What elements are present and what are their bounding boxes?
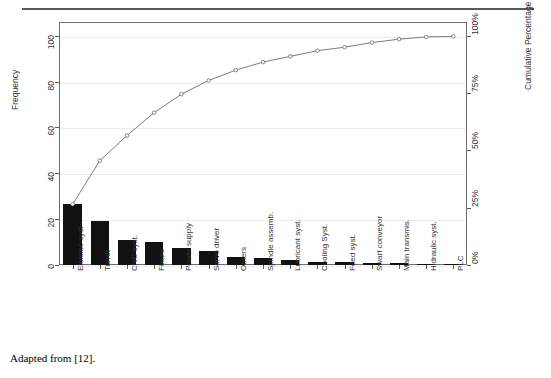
cumulative-marker-12: [397, 37, 401, 41]
y-right-tick-label: 25%: [470, 177, 480, 207]
cumulative-marker-8: [288, 55, 292, 59]
pareto-chart-figure: Frequency Cumulative Percentage 02040608…: [0, 0, 551, 345]
cumulative-marker-10: [343, 45, 347, 49]
y-right-tick-label: 0%: [470, 234, 480, 264]
y-left-tick-label: 60: [46, 126, 56, 148]
y-left-tick-label: 40: [46, 172, 56, 194]
x-tick-mark: [453, 265, 454, 269]
x-axis-label-10: Feed syst.: [348, 234, 357, 271]
cumulative-marker-11: [370, 41, 374, 45]
x-axis-label-12: Main transmis.: [402, 219, 411, 271]
x-axis-label-8: Lubricant syst.: [293, 219, 302, 271]
x-tick-mark: [399, 265, 400, 269]
x-tick-mark: [236, 265, 237, 269]
x-tick-mark: [290, 265, 291, 269]
x-tick-mark: [317, 265, 318, 269]
y-axis-right-title: Cumulative Percentage: [523, 2, 533, 90]
x-axis-label-6: Others: [239, 247, 248, 271]
cumulative-marker-2: [125, 134, 129, 138]
cumulative-markers: [71, 35, 455, 207]
x-tick-mark: [73, 265, 74, 269]
x-axis-label-4: Power supply: [184, 223, 193, 271]
x-axis-label-5: Servo driver: [212, 228, 221, 271]
y-right-tick-label: 50%: [470, 119, 480, 149]
y-right-tick-label: 100%: [470, 5, 480, 35]
x-tick-mark: [127, 265, 128, 269]
x-axis-label-7: Spindle assemb.: [266, 212, 275, 271]
y-right-tick-mark: [467, 93, 471, 94]
x-tick-mark: [263, 265, 264, 269]
figure-caption: Adapted from [12].: [10, 352, 95, 364]
y-left-tick-label: 100: [46, 35, 56, 57]
cumulative-marker-13: [424, 35, 428, 39]
x-tick-mark: [209, 265, 210, 269]
x-axis-label-13: Hidraulic syst.: [429, 221, 438, 271]
cumulative-marker-5: [207, 79, 211, 83]
cumulative-marker-9: [316, 49, 320, 53]
cumulative-marker-1: [98, 159, 102, 163]
y-right-tick-mark: [467, 265, 471, 266]
x-tick-mark: [372, 265, 373, 269]
x-axis-label-1: Turret: [103, 250, 112, 271]
x-axis-label-0: Elelelec syst: [76, 227, 85, 271]
cumulative-marker-0: [71, 203, 75, 207]
x-axis-label-3: Fixure: [157, 249, 166, 271]
y-right-tick-mark: [467, 150, 471, 151]
y-right-tick-mark: [467, 208, 471, 209]
y-left-tick-label: 20: [46, 218, 56, 240]
cumulative-marker-14: [452, 35, 456, 39]
y-axis-left-title: Frequency: [10, 70, 20, 110]
x-axis-label-9: Cooling Syst.: [320, 224, 329, 271]
x-tick-mark: [154, 265, 155, 269]
x-tick-mark: [100, 265, 101, 269]
cumulative-marker-7: [261, 60, 265, 64]
x-tick-mark: [426, 265, 427, 269]
x-tick-mark: [181, 265, 182, 269]
x-axis-label-2: CNC syst.: [130, 235, 139, 271]
y-right-tick-label: 75%: [470, 62, 480, 92]
y-left-tick-label: 80: [46, 81, 56, 103]
x-axis-label-11: Swarf conveyor: [375, 216, 384, 271]
x-tick-mark: [345, 265, 346, 269]
y-right-tick-mark: [467, 36, 471, 37]
cumulative-marker-3: [152, 111, 156, 115]
cumulative-marker-4: [180, 92, 184, 96]
x-axis-label-14: PLC: [456, 255, 465, 271]
cumulative-marker-6: [234, 68, 238, 72]
y-left-tick-label: 0: [46, 264, 56, 286]
